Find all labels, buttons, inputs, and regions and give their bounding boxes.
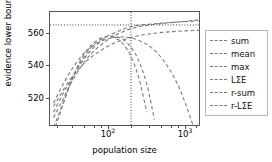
series-line-mean <box>54 30 199 106</box>
series-line-l-e <box>54 21 199 112</box>
y-tick-label-560: 560 <box>4 29 44 38</box>
x-tick-mark-minor <box>161 126 162 128</box>
legend-line-swatch <box>210 79 227 80</box>
chart-legend: summeanmaxLΣEr-sumr-LΣE <box>205 30 268 116</box>
x-tick-mark-minor <box>178 126 179 128</box>
legend-item-r-sum[interactable]: r-sum <box>206 86 267 99</box>
x-tick-mantissa: 10 <box>178 129 189 139</box>
legend-item-label: r-sum <box>231 88 255 98</box>
y-tick-label-520: 520 <box>4 94 44 103</box>
plot-canvas <box>50 12 200 126</box>
legend-item-max[interactable]: max <box>206 60 267 73</box>
legend-item-label: mean <box>231 49 255 59</box>
legend-item-label: r-LΣE <box>231 101 253 111</box>
x-tick-label-1e3: 103 <box>165 129 205 139</box>
plot-area <box>49 11 200 126</box>
x-tick-mark-minor <box>94 126 95 128</box>
legend-line-swatch <box>210 66 227 67</box>
legend-item-mean[interactable]: mean <box>206 47 267 60</box>
x-tick-mark-minor <box>84 126 85 128</box>
x-tick-mark-minor <box>72 126 73 128</box>
x-tick-mark-minor <box>57 126 58 128</box>
x-tick-exponent: 2 <box>112 127 116 134</box>
x-tick-exponent: 3 <box>189 127 193 134</box>
legend-line-swatch <box>210 40 227 41</box>
legend-item-r-l-e[interactable]: r-LΣE <box>206 99 267 112</box>
chart-figure: evidence lower bound 560 540 520 102 103… <box>0 0 272 162</box>
x-tick-label-1e2: 102 <box>88 129 128 139</box>
x-tick-mark-minor <box>196 126 197 128</box>
y-axis-title: evidence lower bound <box>2 0 15 104</box>
x-tick-mark-minor <box>101 126 102 128</box>
x-tick-mark-minor <box>171 126 172 128</box>
y-tick-label-540: 540 <box>4 61 44 70</box>
legend-item-l-e[interactable]: LΣE <box>206 73 267 86</box>
legend-line-swatch <box>210 105 227 106</box>
series-line-sum <box>54 20 199 118</box>
series-line-r-sum <box>54 36 155 126</box>
legend-item-sum[interactable]: sum <box>206 34 267 47</box>
data-series-layer <box>54 20 199 126</box>
legend-item-label: LΣE <box>231 75 246 85</box>
x-tick-mantissa: 10 <box>101 129 112 139</box>
series-line-max <box>54 37 193 125</box>
x-axis-title: population size <box>49 145 200 156</box>
legend-line-swatch <box>210 53 227 54</box>
legend-item-label: sum <box>231 36 249 46</box>
legend-item-label: max <box>231 62 250 72</box>
legend-line-swatch <box>210 92 227 93</box>
x-tick-mark-minor <box>131 126 132 128</box>
x-tick-mark-minor <box>149 126 150 128</box>
